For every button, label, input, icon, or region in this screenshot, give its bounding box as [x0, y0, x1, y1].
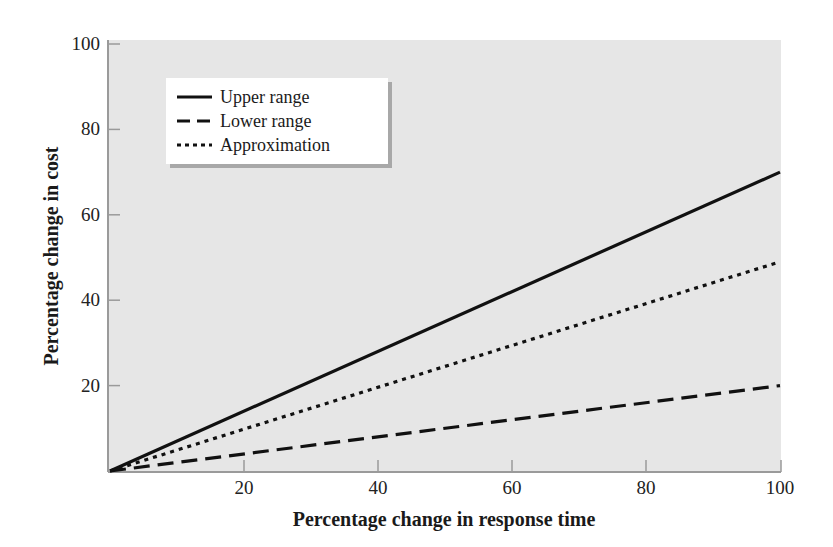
x-tick-label: 20	[235, 477, 254, 498]
x-axis-title: Percentage change in response time	[293, 508, 596, 531]
y-axis-title: Percentage change in cost	[40, 146, 63, 365]
x-tick-label: 80	[637, 477, 656, 498]
line-chart: 2040608010020406080100 Upper rangeLower …	[0, 0, 833, 547]
x-tick-label: 100	[766, 477, 795, 498]
y-tick-label: 60	[81, 204, 100, 225]
legend-label: Approximation	[220, 135, 330, 155]
x-tick-label: 60	[503, 477, 522, 498]
y-tick-label: 40	[81, 289, 100, 310]
legend-label: Lower range	[220, 111, 311, 131]
y-tick-label: 100	[72, 33, 101, 54]
y-tick-label: 20	[81, 375, 100, 396]
legend-label: Upper range	[220, 87, 309, 107]
x-tick-label: 40	[369, 477, 388, 498]
y-tick-label: 80	[81, 118, 100, 139]
legend: Upper rangeLower rangeApproximation	[166, 78, 392, 168]
